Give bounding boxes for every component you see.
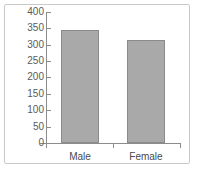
y-axis-label-50: 50 bbox=[8, 122, 44, 132]
x-axis-line bbox=[40, 143, 181, 144]
bar-male bbox=[61, 30, 99, 143]
x-axis-label-female: Female bbox=[119, 151, 173, 162]
x-axis-tick-right bbox=[180, 144, 181, 148]
y-axis-label-100: 100 bbox=[8, 105, 44, 115]
y-axis-label-300: 300 bbox=[8, 40, 44, 50]
chart-frame: 400 350 300 250 200 150 100 50 0 bbox=[4, 4, 190, 164]
y-axis-tick-100 bbox=[46, 110, 51, 111]
y-axis-label-250: 250 bbox=[8, 56, 44, 66]
y-axis-label-150: 150 bbox=[8, 89, 44, 99]
y-axis-tick-200 bbox=[46, 77, 51, 78]
y-axis-tick-300 bbox=[46, 45, 51, 46]
y-axis-label-200: 200 bbox=[8, 72, 44, 82]
y-axis-label-350: 350 bbox=[8, 23, 44, 33]
y-axis-tick-400 bbox=[46, 12, 51, 13]
bar-female bbox=[127, 40, 165, 143]
y-axis-label-400: 400 bbox=[8, 7, 44, 17]
y-axis-label-0: 0 bbox=[8, 138, 44, 148]
bar-chart-plot-area: 400 350 300 250 200 150 100 50 0 bbox=[5, 5, 191, 165]
x-axis-tick-left bbox=[46, 144, 47, 148]
y-axis-tick-150 bbox=[46, 94, 51, 95]
y-axis-tick-50 bbox=[46, 127, 51, 128]
y-axis-tick-350 bbox=[46, 28, 51, 29]
y-axis-tick-250 bbox=[46, 61, 51, 62]
x-axis-tick-middle bbox=[113, 144, 114, 148]
x-axis-label-male: Male bbox=[55, 151, 105, 162]
